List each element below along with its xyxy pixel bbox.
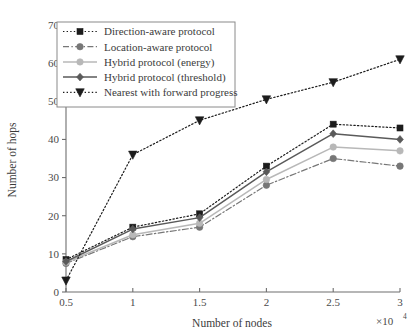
data-point-square [397, 125, 403, 131]
legend-label: Nearest with forward progress [104, 86, 237, 98]
x-tick-label: 1.5 [193, 296, 207, 308]
x-tick-label: 0.5 [59, 296, 73, 308]
y-axis-title-label: Number of hops [6, 122, 19, 197]
x-tick-label: 1 [130, 296, 136, 308]
y-tick-label: 10 [48, 248, 60, 260]
data-point-square [330, 121, 336, 127]
legend-marker-circle [77, 59, 84, 66]
x-axis-multiplier-exponent: 4 [403, 312, 407, 321]
y-tick-label: 30 [48, 171, 60, 183]
data-point-circle [330, 155, 337, 162]
x-tick-label: 2 [264, 296, 270, 308]
x-axis-title-label: Number of nodes [192, 317, 272, 329]
y-tick-label: 20 [48, 210, 60, 222]
legend-label: Location-aware protocol [104, 41, 212, 53]
legend-marker-square [77, 29, 83, 35]
data-point-circle [397, 163, 404, 170]
legend-marker-circle [77, 43, 84, 50]
line-chart: 010203040506070 0.511.522.53 Number of h… [0, 0, 419, 336]
x-tick-label: 2.5 [326, 296, 340, 308]
x-axis-title: Number of nodes [192, 317, 272, 329]
data-point-circle [263, 176, 270, 183]
y-tick-label: 40 [48, 133, 60, 145]
chart-figure: 010203040506070 0.511.522.53 Number of h… [0, 0, 419, 336]
legend-label: Hybrid protocol (threshold) [104, 71, 226, 84]
chart-legend: Direction-aware protocolLocation-aware p… [57, 22, 237, 107]
data-point-circle [330, 144, 337, 151]
legend-label: Direction-aware protocol [104, 25, 215, 37]
data-point-circle [397, 148, 404, 155]
x-tick-label: 3 [397, 296, 403, 308]
y-axis-title: Number of hops [6, 122, 19, 197]
x-axis-multiplier-base: ×10 [376, 315, 394, 327]
legend-label: Hybrid protocol (energy) [104, 56, 215, 69]
